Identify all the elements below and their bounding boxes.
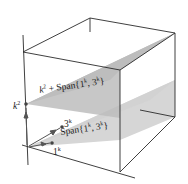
label-k2: k2 xyxy=(13,100,20,112)
point-1k xyxy=(50,141,54,145)
box-top-front xyxy=(23,52,120,70)
box-top-left xyxy=(23,18,90,52)
arrowhead-3k xyxy=(50,130,56,135)
box-top-right xyxy=(120,33,175,70)
arrowhead-k2 xyxy=(24,112,28,118)
box-bottom-front xyxy=(22,145,135,178)
label-1k: 1k xyxy=(53,146,61,158)
diagram-canvas xyxy=(0,0,188,184)
box-top-back xyxy=(90,18,175,33)
point-k2 xyxy=(24,102,28,106)
